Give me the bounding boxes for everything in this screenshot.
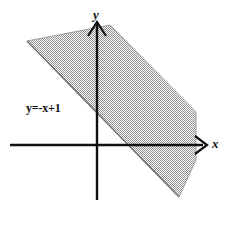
coordinate-plane-figure: y x y=-x+1 xyxy=(0,0,234,230)
y-axis-label: y xyxy=(93,8,99,21)
line-equation-label: y=-x+1 xyxy=(26,101,60,116)
x-axis-label: x xyxy=(212,137,219,150)
